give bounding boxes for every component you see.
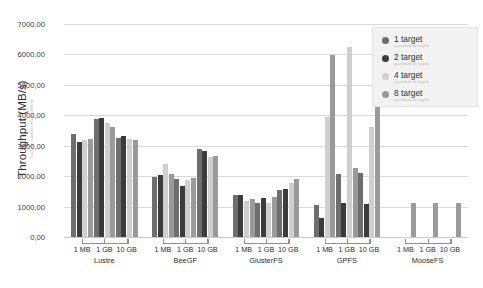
bar — [456, 203, 461, 237]
bar — [233, 195, 238, 237]
x-axis-tick-label: 1 MB — [235, 245, 252, 254]
legend-sublabel: quantidade de targets — [394, 98, 429, 103]
y-axis-subtitle: Taxa de transferência (MB/s) — [29, 44, 34, 214]
bar — [250, 199, 255, 237]
bar — [411, 203, 416, 237]
y-axis-tick-label: 2000,00 — [0, 172, 45, 181]
bar — [158, 175, 163, 237]
bar — [116, 138, 121, 237]
bar — [99, 118, 104, 237]
bar — [88, 139, 93, 237]
group-bracket — [325, 239, 372, 244]
x-axis-tick-label: 10 GB — [197, 245, 217, 254]
x-axis-tick-label: 1 MB — [316, 245, 333, 254]
x-axis-labels: 1 MB1 GB10 GBLustre1 MB1 GB10 GBBeeGF1 M… — [64, 239, 468, 285]
legend-label: 4 target — [394, 70, 429, 80]
x-axis-group-label: MooseFS — [412, 256, 444, 265]
bar — [369, 127, 374, 237]
y-axis-tick-label: 5000,00 — [0, 80, 45, 89]
bar — [266, 203, 271, 237]
bar — [208, 157, 213, 237]
bar-group — [233, 24, 300, 237]
bar-group — [71, 24, 138, 237]
bar — [341, 203, 346, 237]
bar — [197, 149, 202, 237]
bar — [94, 119, 99, 237]
bar — [294, 179, 299, 237]
bar — [433, 203, 438, 237]
group-bracket — [405, 239, 452, 244]
bar — [174, 179, 179, 237]
x-axis-tick-label: 1 MB — [397, 245, 414, 254]
bar — [127, 139, 132, 237]
bar — [358, 173, 363, 237]
bar — [347, 47, 352, 237]
x-axis-tick-label: 10 GB — [440, 245, 460, 254]
x-axis-tick-label: 1 MB — [74, 245, 91, 254]
legend-swatch-icon — [382, 91, 389, 98]
legend-sublabel: quantidade de targets — [394, 62, 429, 67]
bar — [272, 197, 277, 237]
y-axis-tick-label: 7000,00 — [0, 20, 45, 29]
bar — [336, 174, 341, 237]
legend-swatch-icon — [382, 37, 389, 44]
legend-label: 2 target — [394, 52, 429, 62]
bar — [375, 103, 380, 237]
bar-group — [152, 24, 219, 237]
x-axis-tick-label: 1 GB — [96, 245, 112, 254]
y-axis-tick-label: 3000,00 — [0, 141, 45, 150]
bar — [213, 156, 218, 237]
x-axis-tick-label: 10 GB — [278, 245, 298, 254]
bar — [185, 180, 190, 237]
y-axis-tick-label: 1000,00 — [0, 202, 45, 211]
group-bracket — [82, 239, 129, 244]
bar — [319, 218, 324, 237]
bar — [180, 186, 185, 237]
legend-label: 1 target — [394, 34, 429, 44]
bar — [77, 142, 82, 237]
x-axis-tick-label: 10 GB — [359, 245, 379, 254]
x-axis-tick-label: 1 GB — [177, 245, 193, 254]
chart-legend: 1 targetquantidade de targets2 targetqua… — [372, 27, 478, 107]
bar — [163, 164, 168, 237]
bar — [325, 117, 330, 237]
bar — [283, 189, 288, 237]
x-axis-line — [64, 237, 468, 238]
bar — [152, 177, 157, 237]
bar — [202, 151, 207, 237]
bar — [238, 195, 243, 237]
bar — [191, 178, 196, 237]
bar — [289, 183, 294, 237]
bar — [121, 136, 126, 237]
bar — [133, 140, 138, 237]
bar — [261, 198, 266, 237]
x-axis-group-label: BeeGF — [173, 256, 196, 265]
x-axis-tick-label: 10 GB — [116, 245, 136, 254]
x-axis-group-label: GPFS — [337, 256, 357, 265]
legend-sublabel: quantidade de targets — [394, 44, 429, 49]
legend-swatch-icon — [382, 73, 389, 80]
legend-swatch-icon — [382, 55, 389, 62]
x-axis-group-label: Lustre — [94, 256, 115, 265]
bar — [169, 174, 174, 237]
x-axis-group-label: GlusterFS — [249, 256, 282, 265]
legend-label: 8 target — [394, 88, 429, 98]
x-axis-tick-label: 1 GB — [419, 245, 435, 254]
bar — [244, 201, 249, 238]
bar — [110, 127, 115, 237]
bar — [255, 203, 260, 237]
group-bracket — [244, 239, 291, 244]
legend-sublabel: quantidade de targets — [394, 80, 429, 85]
bar-group — [313, 24, 380, 237]
bar — [71, 134, 76, 237]
bar — [364, 204, 369, 237]
bar — [105, 123, 110, 237]
bar — [277, 190, 282, 237]
bar — [353, 168, 358, 237]
y-axis-tick-label: 4000,00 — [0, 111, 45, 120]
group-bracket — [163, 239, 210, 244]
bar-chart: Throughput (MB/s) Taxa de transferência … — [0, 0, 483, 288]
x-axis-tick-label: 1 GB — [258, 245, 274, 254]
y-axis-title: Throughput (MB/s) — [16, 44, 28, 214]
x-axis-tick-label: 1 MB — [155, 245, 172, 254]
